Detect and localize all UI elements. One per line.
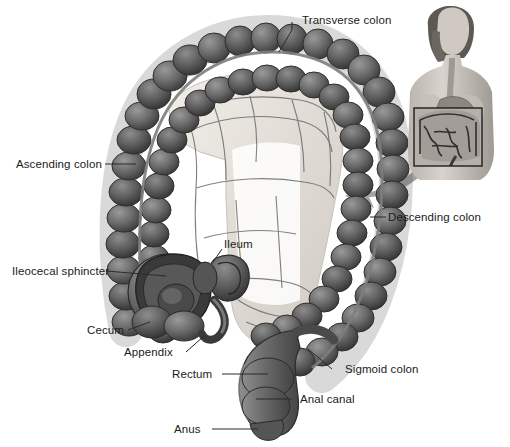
label-anus: Anus [174,423,201,435]
label-rectum: Rectum [172,368,212,380]
label-ileocecal-sphincter: Ileocecal sphincter [12,265,109,277]
label-cecum: Cecum [87,324,124,336]
cecum-region [128,254,249,341]
label-ascending-colon: Ascending colon [16,158,102,170]
label-transverse-colon: Transverse colon [302,14,391,26]
label-ileum: Ileum [224,238,253,250]
label-descending-colon: Descending colon [388,211,481,223]
female-torso-inset [408,6,494,180]
label-appendix: Appendix [124,346,173,358]
label-anal-canal: Anal canal [300,393,355,405]
colon-anatomy-figure [0,0,510,447]
inset-intestines [414,108,482,174]
label-sigmoid-colon: Sigmoid colon [345,363,419,375]
